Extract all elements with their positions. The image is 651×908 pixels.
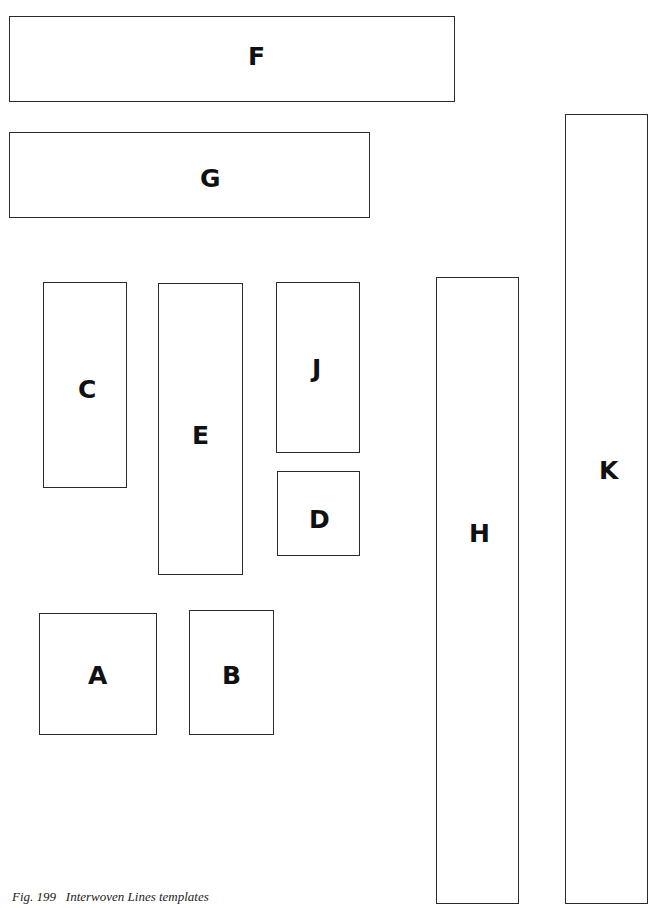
template-j-label: J (312, 354, 321, 383)
template-k-label: K (599, 456, 618, 485)
figure-caption: Fig. 199 Interwoven Lines templates (12, 889, 209, 905)
template-f-label: F (248, 42, 265, 71)
template-d-label: D (309, 505, 330, 534)
template-g-label: G (200, 164, 221, 193)
template-g: G (9, 132, 370, 218)
template-f: F (9, 16, 455, 102)
template-e-label: E (192, 421, 209, 450)
template-a-label: A (88, 661, 107, 690)
template-c-label: C (78, 375, 96, 404)
template-c: C (43, 282, 127, 488)
template-h-label: H (469, 519, 490, 548)
template-h: H (436, 277, 519, 904)
template-a: A (39, 613, 157, 735)
template-k: K (565, 114, 648, 904)
template-e: E (158, 283, 243, 575)
template-b: B (189, 610, 274, 735)
template-b-label: B (222, 661, 241, 690)
template-j: J (276, 282, 360, 453)
template-d: D (277, 471, 360, 556)
